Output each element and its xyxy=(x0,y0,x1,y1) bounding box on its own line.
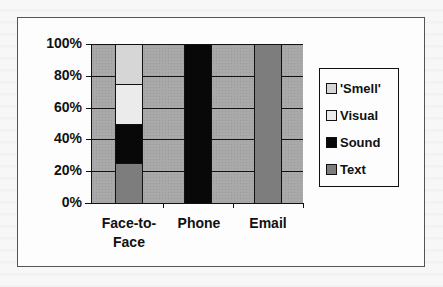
x-tick xyxy=(163,203,164,208)
x-tick xyxy=(303,203,304,208)
y-tick xyxy=(86,108,92,109)
bar-segment-text xyxy=(255,44,281,203)
y-label-20: 20% xyxy=(30,162,82,178)
legend-label-text: Text xyxy=(340,162,366,177)
y-axis xyxy=(91,44,92,204)
bar-phone xyxy=(184,44,212,203)
x-label-phone: Phone xyxy=(164,214,234,233)
legend: 'Smell' Visual Sound Text xyxy=(319,68,399,187)
y-tick xyxy=(86,171,92,172)
y-tick xyxy=(86,139,92,140)
legend-swatch-sound xyxy=(326,137,337,148)
legend-label-sound: Sound xyxy=(340,135,380,150)
bar-segment-visual xyxy=(116,84,142,124)
legend-item-sound: Sound xyxy=(326,133,380,151)
legend-swatch-text xyxy=(326,164,337,175)
y-label-80: 80% xyxy=(30,67,82,83)
bar-face-to-face xyxy=(115,44,143,203)
bar-segment-text xyxy=(116,163,142,203)
x-axis xyxy=(85,203,304,204)
x-label-email: Email xyxy=(233,214,303,233)
plot-area xyxy=(92,44,303,203)
x-tick xyxy=(233,203,234,208)
legend-item-smell: 'Smell' xyxy=(326,79,381,97)
bar-segment-sound xyxy=(116,124,142,164)
legend-swatch-smell xyxy=(326,83,337,94)
x-label-face-to-face: Face-to- Face xyxy=(94,214,164,252)
legend-label-visual: Visual xyxy=(340,108,378,123)
y-label-100: 100% xyxy=(30,35,82,51)
legend-swatch-visual xyxy=(326,110,337,121)
y-tick xyxy=(86,76,92,77)
legend-item-text: Text xyxy=(326,160,366,178)
bar-email xyxy=(254,44,282,203)
bar-segment-sound xyxy=(185,44,211,203)
y-tick xyxy=(86,203,92,204)
y-label-0: 0% xyxy=(30,194,82,210)
legend-label-smell: 'Smell' xyxy=(340,81,381,96)
bar-segment-smell xyxy=(116,44,142,84)
y-tick xyxy=(86,44,92,45)
y-label-40: 40% xyxy=(30,130,82,146)
legend-item-visual: Visual xyxy=(326,106,378,124)
y-label-60: 60% xyxy=(30,99,82,115)
